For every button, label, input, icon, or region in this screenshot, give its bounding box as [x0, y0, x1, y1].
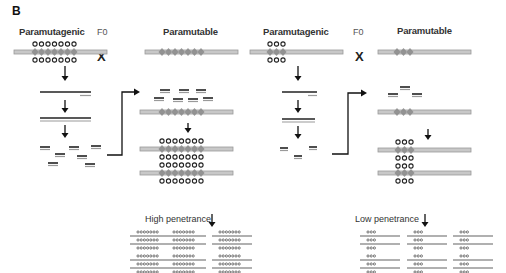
tandem-repeat	[198, 48, 205, 56]
methylation-mark	[160, 155, 164, 159]
arrow-down-icon	[295, 76, 302, 81]
tandem-repeat	[198, 145, 205, 153]
methylation-mark	[274, 42, 278, 46]
high-penetrance-progeny-methylation-mark	[219, 255, 221, 257]
high-penetrance-progeny-methylation-mark	[232, 263, 234, 265]
low-penetrance-progeny-methylation-mark	[414, 239, 416, 241]
high-penetrance-progeny-methylation-mark	[229, 231, 231, 233]
methylation-mark	[396, 179, 400, 183]
high-penetrance-progeny-methylation-mark	[225, 239, 227, 241]
tandem-repeat	[395, 169, 402, 177]
tandem-repeat	[159, 108, 166, 116]
tandem-repeat	[280, 48, 287, 56]
high-penetrance-progeny-methylation-mark	[140, 263, 142, 265]
tandem-repeat	[191, 169, 198, 177]
high-penetrance-progeny-methylation-mark	[229, 263, 231, 265]
high-penetrance-progeny-methylation-mark	[219, 247, 221, 249]
high-penetrance-progeny-methylation-mark	[189, 255, 191, 257]
low-penetrance-progeny-methylation-mark	[460, 255, 462, 257]
methylation-mark	[281, 42, 285, 46]
methylation-mark	[166, 155, 170, 159]
high-penetrance-progeny-methylation-mark	[176, 263, 178, 265]
high-penetrance-progeny-methylation-mark	[143, 231, 145, 233]
methylation-mark	[39, 58, 43, 62]
tandem-repeat	[38, 48, 45, 56]
high-penetrance-progeny-methylation-mark	[153, 247, 155, 249]
tandem-repeat	[198, 108, 205, 116]
arrow-down-icon	[62, 108, 69, 113]
high-penetrance-progeny-methylation-mark	[173, 263, 175, 265]
tandem-repeat	[178, 169, 185, 177]
low-penetrance-progeny-methylation-mark	[370, 239, 372, 241]
methylation-mark	[186, 155, 190, 159]
high-penetrance-progeny-methylation-mark	[232, 247, 234, 249]
high-penetrance-progeny-methylation-mark	[137, 255, 139, 257]
low-penetrance-progeny-methylation-mark	[417, 231, 419, 233]
high-penetrance-progeny-methylation-mark	[238, 231, 240, 233]
tandem-repeat	[159, 145, 166, 153]
high-penetrance-progeny-methylation-mark	[225, 247, 227, 249]
high-penetrance-progeny-methylation-mark	[183, 263, 185, 265]
tandem-repeat	[191, 48, 198, 56]
high-penetrance-progeny-methylation-mark	[232, 239, 234, 241]
low-penetrance-progeny-methylation-mark	[367, 263, 369, 265]
methylation-mark	[52, 42, 56, 46]
high-penetrance-progeny-methylation-mark	[186, 231, 188, 233]
tandem-repeat	[400, 108, 407, 116]
low-penetrance-progeny-methylation-mark	[414, 247, 416, 249]
tandem-repeat	[401, 169, 408, 177]
low-penetrance-progeny-methylation-mark	[420, 247, 422, 249]
methylation-mark	[179, 155, 183, 159]
high-penetrance-progeny-methylation-mark	[147, 255, 149, 257]
high-penetrance-progeny-methylation-mark	[179, 239, 181, 241]
tandem-repeat	[159, 48, 166, 56]
methylation-mark	[39, 42, 43, 46]
low-penetrance-progeny-methylation-mark	[417, 239, 419, 241]
high-penetrance-progeny-methylation-mark	[235, 239, 237, 241]
methylation-mark	[186, 139, 190, 143]
methylation-mark	[160, 163, 164, 167]
high-penetrance-progeny-methylation-mark	[235, 247, 237, 249]
high-penetrance-progeny-methylation-mark	[150, 231, 152, 233]
paramutable-target-chromosome-right	[378, 110, 471, 114]
high-penetrance-progeny-methylation-mark	[229, 239, 231, 241]
methylation-mark	[409, 179, 413, 183]
high-penetrance-progeny-methylation-mark	[156, 239, 158, 241]
high-penetrance-progeny-methylation-mark	[153, 263, 155, 265]
high-penetrance-progeny-methylation-mark	[173, 239, 175, 241]
methylation-mark	[199, 155, 203, 159]
methylation-mark	[173, 163, 177, 167]
arrow-down-icon	[62, 76, 69, 81]
low-penetrance-progeny-methylation-mark	[466, 247, 468, 249]
low-penetrance-progeny-methylation-mark	[373, 247, 375, 249]
methylation-mark	[160, 139, 164, 143]
methylation-mark	[409, 156, 413, 160]
high-penetrance-progeny-methylation-mark	[176, 239, 178, 241]
low-penetrance-progeny-methylation-mark	[373, 239, 375, 241]
tandem-repeat	[172, 48, 179, 56]
high-penetrance-progeny-methylation-mark	[232, 231, 234, 233]
low-penetrance-progeny-methylation-mark	[373, 263, 375, 265]
methylation-mark	[199, 139, 203, 143]
methylation-mark	[166, 139, 170, 143]
low-penetrance-progeny-methylation-mark	[463, 239, 465, 241]
methylation-mark	[33, 42, 37, 46]
paramutated-chromosome-right	[378, 148, 471, 152]
high-penetrance-progeny-methylation-mark	[156, 231, 158, 233]
methylation-mark	[59, 58, 63, 62]
elbow-arrow-left	[134, 89, 140, 96]
tandem-repeat	[394, 108, 401, 116]
high-penetrance-progeny-methylation-mark	[222, 247, 224, 249]
high-penetrance-progeny-methylation-mark	[238, 255, 240, 257]
high-penetrance-progeny-methylation-mark	[143, 247, 145, 249]
methylation-mark	[402, 156, 406, 160]
elbow-arrow-right	[361, 90, 367, 97]
low-penetrance-progeny-methylation-mark	[463, 247, 465, 249]
high-penetrance-progeny-methylation-mark	[232, 255, 234, 257]
low-penetrance-progeny-methylation-mark	[466, 263, 468, 265]
methylation-mark	[274, 58, 278, 62]
methylation-mark	[72, 58, 76, 62]
high-penetrance-progeny-methylation-mark	[222, 255, 224, 257]
low-penetrance-progeny-methylation-mark	[466, 255, 468, 257]
tandem-repeat	[178, 48, 185, 56]
